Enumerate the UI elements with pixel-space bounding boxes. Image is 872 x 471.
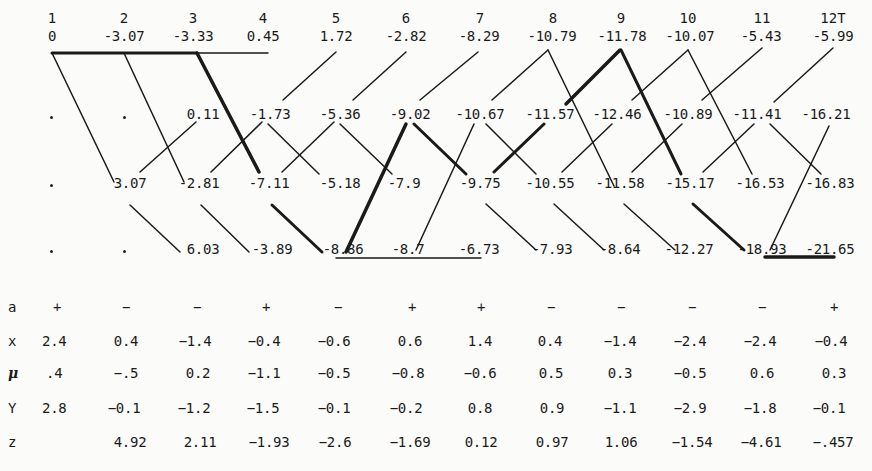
x-cell: −2.4 (744, 333, 777, 349)
mu-cell: −0.8 (392, 365, 425, 381)
node-value: 6.03 (187, 241, 220, 257)
node-value: 3.07 (114, 175, 147, 191)
z-cell: 2.11 (184, 434, 217, 450)
sign-cell: − (193, 299, 201, 315)
row-label-mu: μ (8, 365, 18, 381)
x-cell: −0.4 (815, 333, 848, 349)
stage-header: 11 (754, 10, 771, 26)
node-value: -3.07 (104, 28, 145, 44)
y-cell: −1.8 (744, 400, 777, 416)
node-value: -10.55 (526, 175, 575, 191)
x-cell: 0.6 (398, 333, 422, 349)
node-value: -9.02 (390, 106, 431, 122)
y-cell: 2.8 (42, 400, 66, 416)
node-value: -8.86 (323, 241, 364, 257)
node-value: -8.29 (459, 28, 500, 44)
node-value: -16.83 (806, 175, 855, 191)
node-value: -10.67 (456, 106, 505, 122)
y-cell: 0.9 (540, 400, 564, 416)
x-cell: −2.4 (674, 333, 707, 349)
stage-header: 10 (680, 10, 697, 26)
node-value: -2.82 (386, 28, 427, 44)
y-cell: −0.1 (813, 400, 846, 416)
mu-cell: −0.5 (674, 365, 707, 381)
x-cell: 0.4 (114, 333, 138, 349)
node-value: -12.46 (593, 106, 642, 122)
z-cell: −1.93 (249, 434, 290, 450)
mu-cell: 0.2 (186, 365, 210, 381)
z-cell: 1.06 (605, 434, 638, 450)
node-value: 0 (48, 28, 56, 44)
row-label-a: a (8, 299, 16, 315)
node-value: -7.11 (249, 175, 290, 191)
node-value: 0.45 (247, 28, 280, 44)
sign-cell: + (53, 299, 61, 315)
row-label-z: z (8, 434, 16, 450)
mu-cell: 0.6 (750, 365, 774, 381)
node-value: -1.73 (250, 106, 291, 122)
sign-cell: − (334, 299, 342, 315)
z-cell: −4.61 (741, 434, 782, 450)
node-value: -8.64 (600, 241, 641, 257)
mu-cell: −1.1 (248, 365, 281, 381)
empty-node-dot (123, 250, 126, 253)
x-cell: 1.4 (468, 333, 492, 349)
sign-cell: + (408, 299, 416, 315)
node-value: -5.36 (320, 106, 361, 122)
stage-header: 6 (402, 10, 410, 26)
node-value: 1.72 (320, 28, 353, 44)
node-value: -9.75 (460, 175, 501, 191)
y-cell: −0.1 (108, 400, 141, 416)
node-value: -15.17 (666, 175, 715, 191)
stage-header: 2 (120, 10, 128, 26)
node-value: -3.89 (252, 241, 293, 257)
mu-cell: −0.6 (464, 365, 497, 381)
node-value: -16.21 (802, 106, 851, 122)
y-cell: −1.2 (178, 400, 211, 416)
x-cell: −1.4 (604, 333, 637, 349)
z-cell: 4.92 (114, 434, 147, 450)
y-cell: −0.1 (318, 400, 351, 416)
x-cell: −0.6 (318, 333, 351, 349)
x-cell: 0.4 (538, 333, 562, 349)
node-value: -18.93 (738, 241, 787, 257)
stage-header: 9 (617, 10, 625, 26)
node-value: -11.78 (598, 28, 647, 44)
node-value: -10.07 (666, 28, 715, 44)
node-value: -10.79 (528, 28, 577, 44)
stage-header: 7 (476, 10, 484, 26)
sign-cell: − (758, 299, 766, 315)
node-value: -11.58 (596, 175, 645, 191)
row-label-x: x (8, 333, 16, 349)
empty-node-dot (123, 116, 126, 119)
node-value: -12.27 (665, 241, 714, 257)
sign-cell: − (547, 299, 555, 315)
mu-cell: .4 (46, 365, 62, 381)
z-cell: −.457 (813, 434, 854, 450)
node-value: -6.73 (459, 241, 500, 257)
stage-header: 4 (259, 10, 267, 26)
y-cell: −0.2 (390, 400, 423, 416)
empty-node-dot (50, 116, 53, 119)
sign-cell: + (262, 299, 270, 315)
node-value: -11.41 (733, 106, 782, 122)
z-cell: −1.54 (672, 434, 713, 450)
mu-cell: −0.5 (318, 365, 351, 381)
x-cell: 2.4 (42, 333, 66, 349)
node-value: -10.89 (664, 106, 713, 122)
node-value: -7.93 (532, 241, 573, 257)
y-cell: −1.1 (604, 400, 637, 416)
stage-header: 1 (48, 10, 56, 26)
z-cell: −1.69 (390, 434, 431, 450)
node-value: -21.65 (806, 241, 855, 257)
mu-cell: 0.3 (822, 365, 846, 381)
mu-cell: 0.3 (608, 365, 632, 381)
node-value: -5.43 (741, 28, 782, 44)
node-value: -5.18 (320, 175, 361, 191)
mu-cell: 0.5 (539, 365, 563, 381)
row-label-y: Y (8, 400, 16, 416)
node-value: 0.11 (187, 106, 220, 122)
sign-cell: − (688, 299, 696, 315)
node-value: -8.7 (392, 241, 425, 257)
sign-cell: − (122, 299, 130, 315)
